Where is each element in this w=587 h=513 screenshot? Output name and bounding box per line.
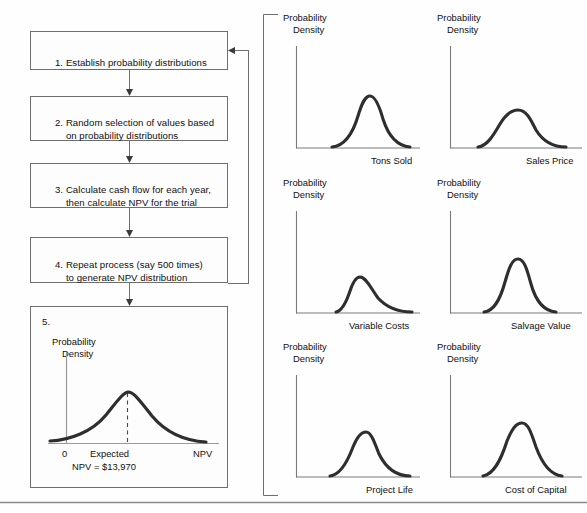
arrowheads [126,47,235,306]
dist-chart-4-graphic [450,211,582,314]
dist-chart-6-curve [483,423,562,476]
dist-chart-2-graphic [450,46,582,149]
distributions-grouping-bracket [264,15,279,496]
dist-chart-3-graphic [296,211,420,314]
figure-canvas: 1.Establish probability distributions 2.… [0,0,587,513]
dist-chart-5-curve [330,432,410,476]
arrowhead-to-box-3 [126,156,133,163]
arrowhead-to-box-4 [126,230,133,237]
dist-chart-1-curve [332,96,410,147]
dist-chart-4-curve [484,259,556,312]
dist-chart-6-graphic [450,375,582,478]
arrowhead-feedback-to-box-1 [228,47,235,54]
dist-chart-1-graphic [296,46,420,149]
dist-chart-5-graphic [296,375,420,478]
feedback-loop-path [228,51,249,284]
dist-chart-3-curve [336,277,412,312]
figure-linework [0,0,587,513]
arrowhead-to-box-5 [126,299,133,306]
result-chart-graphic [48,352,219,444]
dist-chart-2-curve [478,110,566,147]
arrowhead-to-box-2 [126,89,133,96]
